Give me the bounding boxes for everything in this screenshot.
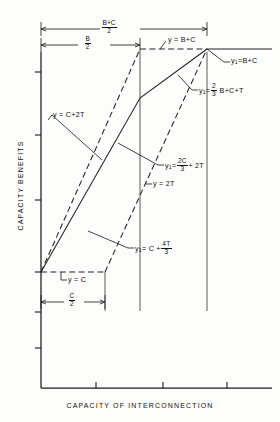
dimension-b-plus-c-over-2 <box>41 22 207 36</box>
label-y-c: y = C <box>68 276 86 283</box>
frac-denominator: 2 <box>102 27 117 35</box>
label-rhs: C+2T <box>66 110 85 119</box>
leader-y-c <box>61 272 67 280</box>
label-eq: = C + <box>142 244 161 253</box>
label-rhs: B+C <box>181 35 196 44</box>
frac-numerator: C <box>69 293 76 300</box>
frac-denominator: 3 <box>177 165 188 173</box>
frac-denominator: 3 <box>211 90 217 98</box>
label-y1-c-plus-four-t-over-three: y1= C +4T3 <box>135 242 172 257</box>
frac-numerator: B+C <box>102 20 117 27</box>
label-lhs: y = <box>153 179 164 188</box>
frac-denominator: 2 <box>85 43 91 51</box>
frac-denominator: 3 <box>161 248 171 256</box>
label-y-2t: y = 2T <box>153 180 175 187</box>
label-lhs: y = <box>53 110 64 119</box>
axis-x <box>41 382 272 388</box>
figure-root: B+C 2 B 2 C 2 y = B+C y1=B+C y1=23 B+C+T… <box>0 0 280 422</box>
label-rhs: 2T <box>166 179 175 188</box>
leader-y1-2c3-plus-2t <box>118 143 164 165</box>
frac-numerator: 2C <box>177 158 188 165</box>
label-y1-b-plus-c: y1=B+C <box>231 57 257 65</box>
leader-y1-two-thirds <box>178 75 198 90</box>
leader-y1-c-plus-4t3 <box>88 231 134 248</box>
x-axis-title: CAPACITY OF INTERCONNECTION <box>0 402 280 409</box>
dimension-label-c-over-2: C 2 <box>68 294 76 309</box>
label-y-b-plus-c: y = B+C <box>168 36 196 43</box>
label-eq: = <box>206 86 210 95</box>
label-y1-two-c-over-three-plus-2t: y1=2C3+ 2T <box>165 159 204 174</box>
leader-y-b-plus-c <box>160 41 166 49</box>
dimension-label-b-plus-c-over-2: B+C 2 <box>101 21 117 36</box>
label-lhs: y = <box>68 275 79 284</box>
label-y-c-plus-2t: y = C+2T <box>53 111 85 118</box>
y-axis-title: CAPACITY BENEFITS <box>17 126 24 246</box>
axis-y <box>35 52 41 388</box>
label-lhs: y = <box>168 35 179 44</box>
label-rhs: C <box>81 275 86 284</box>
dimension-label-b-over-2: B 2 <box>84 37 91 52</box>
label-rhs: + 2T <box>188 161 204 170</box>
frac-numerator: B <box>85 36 91 43</box>
frac-denominator: 2 <box>69 300 76 308</box>
frac-numerator: 2 <box>211 83 217 90</box>
curve-y-c-plus-2t <box>41 49 140 272</box>
label-eq: = <box>172 161 176 170</box>
leader-y-c-plus-2t <box>48 115 102 160</box>
label-rhs: B+C <box>242 56 257 65</box>
frac-numerator: 4T <box>161 241 171 248</box>
leader-y1-b-plus-c <box>207 49 230 62</box>
label-rhs: B+C+T <box>220 86 244 95</box>
label-y1-two-thirds-b-plus-c-plus-t: y1=23 B+C+T <box>199 84 244 99</box>
